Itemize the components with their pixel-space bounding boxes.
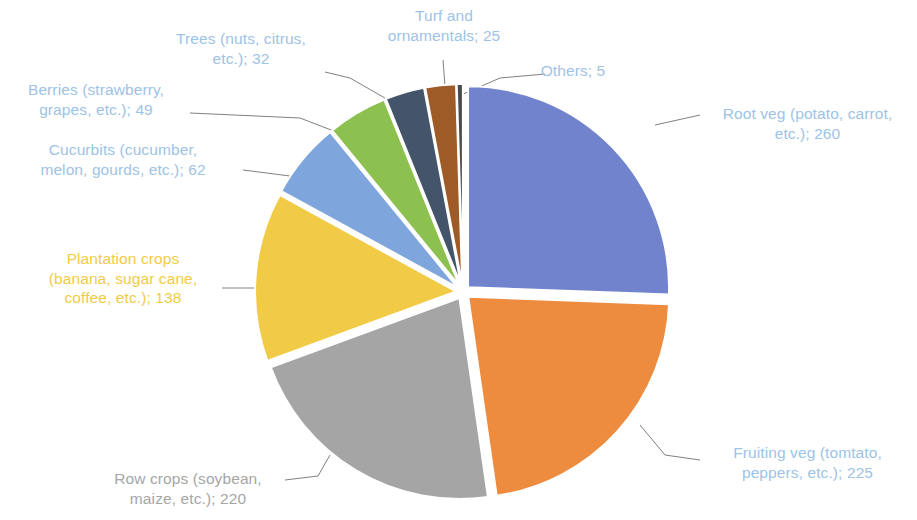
pie-chart-svg <box>0 0 917 520</box>
leader-line-root-veg <box>655 115 700 125</box>
pie-slice <box>468 297 669 496</box>
pie-slice-group <box>255 84 669 499</box>
leader-line-fruiting-veg <box>640 425 700 460</box>
leader-line-row-crops <box>285 455 330 480</box>
pie-chart-figure: Root veg (potato, carrot, etc.); 260 Fru… <box>0 0 917 520</box>
pie-slice <box>468 86 669 294</box>
